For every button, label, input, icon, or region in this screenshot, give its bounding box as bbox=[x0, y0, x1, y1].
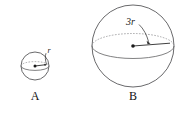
sphere-b-radius-label: 3r bbox=[125, 16, 135, 27]
sphere-a-radius-label: r bbox=[48, 46, 52, 55]
sphere-b-caption: B bbox=[114, 90, 152, 102]
sphere-comparison-figure: r 3r A B bbox=[0, 0, 179, 113]
sphere-a-center-dot bbox=[34, 65, 37, 68]
sphere-b-group: 3r bbox=[92, 5, 174, 87]
sphere-a-caption: A bbox=[16, 90, 54, 102]
sphere-a-group: r bbox=[21, 46, 52, 81]
sphere-b-center-dot bbox=[131, 44, 135, 48]
